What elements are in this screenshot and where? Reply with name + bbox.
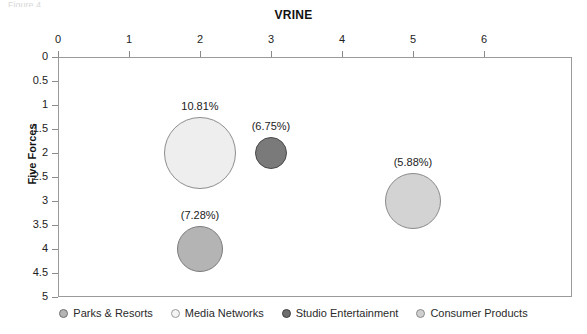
y-tick-label: 3.5 [8,218,48,230]
y-tick-label: 4 [8,242,48,254]
y-tick-mark [52,177,58,178]
legend-item-consumer-products[interactable]: Consumer Products [416,307,527,319]
y-tick-label: 2 [8,146,48,158]
y-tick-label: 1.5 [8,122,48,134]
y-tick-mark [52,57,58,58]
legend-label: Consumer Products [430,307,527,319]
x-tick-mark [413,51,414,57]
x-tick-label: 4 [322,33,362,45]
y-tick-label: 3 [8,194,48,206]
x-tick-label: 0 [38,33,78,45]
x-tick-mark [200,51,201,57]
y-tick-label: 0.5 [8,74,48,86]
x-tick-mark [271,51,272,57]
bubble-value-label: (7.28%) [181,209,220,221]
y-tick-label: 5 [8,290,48,302]
legend-circle-icon [416,309,425,318]
y-tick-mark [52,105,58,106]
bubble-media-networks[interactable] [164,117,236,189]
y-tick-mark [52,273,58,274]
legend-item-studio-entertainment[interactable]: Studio Entertainment [282,307,399,319]
bubble-value-label: 10.81% [181,100,218,112]
x-tick-label: 5 [393,33,433,45]
y-tick-mark [52,201,58,202]
y-tick-mark [52,225,58,226]
y-tick-mark [52,153,58,154]
legend-label: Media Networks [185,307,264,319]
legend-label: Parks & Resorts [73,307,152,319]
x-tick-label: 1 [109,33,149,45]
y-tick-mark [52,249,58,250]
y-tick-mark [52,129,58,130]
y-tick-label: 2.5 [8,170,48,182]
bubble-chart: Figure 4 VRINE Five Forces 0123456 00.51… [0,0,587,334]
legend-item-parks-resorts[interactable]: Parks & Resorts [59,307,152,319]
plot-area [58,57,572,297]
x-tick-mark [58,51,59,57]
x-tick-label: 2 [180,33,220,45]
x-axis-title: VRINE [0,8,587,22]
bubble-consumer-products[interactable] [385,173,441,229]
y-tick-label: 4.5 [8,266,48,278]
x-tick-mark [129,51,130,57]
legend-circle-icon [282,309,291,318]
legend-item-media-networks[interactable]: Media Networks [171,307,264,319]
chart-legend: Parks & ResortsMedia NetworksStudio Ente… [0,307,587,319]
legend-circle-icon [171,309,180,318]
x-tick-mark [342,51,343,57]
bubble-value-label: (6.75%) [252,120,291,132]
y-tick-label: 0 [8,50,48,62]
bubble-studio-entertainment[interactable] [255,137,287,169]
x-tick-label: 6 [464,33,504,45]
y-tick-label: 1 [8,98,48,110]
legend-circle-icon [59,309,68,318]
y-tick-mark [52,297,58,298]
bubble-value-label: (5.88%) [394,156,433,168]
x-tick-label: 3 [251,33,291,45]
legend-label: Studio Entertainment [296,307,399,319]
x-tick-mark [484,51,485,57]
bubble-parks-resorts[interactable] [177,226,223,272]
y-tick-mark [52,81,58,82]
clipped-caption-fragment: Figure 4 [8,0,208,7]
